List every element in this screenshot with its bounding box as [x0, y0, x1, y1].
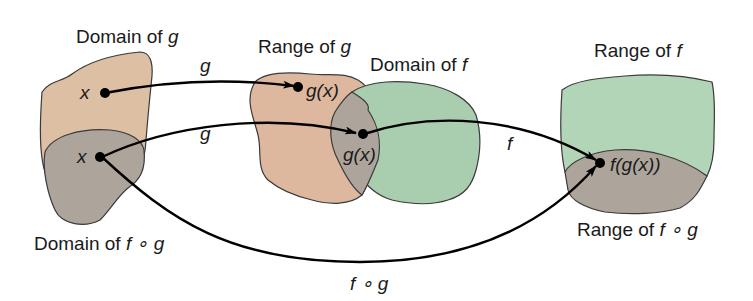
label-arrow-g-bottom: g: [200, 123, 211, 144]
label-domain-fog: Domain of f ∘ g: [34, 233, 165, 254]
composition-diagram: x x g(x) g(x) f(g(x)) g g f f ∘ g Domain…: [0, 0, 753, 301]
label-gx-top: g(x): [306, 80, 339, 101]
label-domain-g: Domain of g: [76, 26, 179, 47]
label-arrow-g-top: g: [200, 55, 211, 76]
point-gx-mid: [358, 129, 368, 139]
point-gx-top: [293, 82, 303, 92]
label-range-f: Range of f: [594, 40, 683, 61]
label-arrow-f: f: [507, 133, 514, 154]
domain-fog-region: [44, 130, 144, 225]
label-x-bottom: x: [76, 146, 88, 167]
label-fgx: f(g(x)): [610, 154, 661, 175]
point-fgx: [595, 158, 605, 168]
label-x-top: x: [79, 82, 91, 103]
point-x-top: [100, 88, 110, 98]
label-arrow-fog: f ∘ g: [350, 273, 389, 294]
label-domain-f: Domain of f: [370, 54, 469, 75]
point-x-bottom: [95, 152, 105, 162]
label-gx-mid: g(x): [343, 144, 376, 165]
label-range-fog: Range of f ∘ g: [577, 219, 698, 240]
label-range-g: Range of g: [258, 36, 351, 57]
